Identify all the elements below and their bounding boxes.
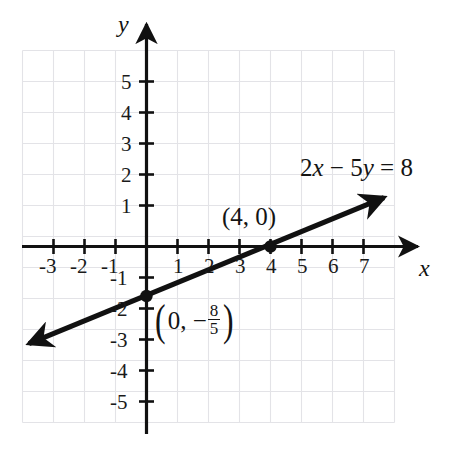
x-tick-label-1: 1 xyxy=(173,256,184,277)
y-tick-label-1: 1 xyxy=(121,196,132,217)
grid-lines xyxy=(23,51,395,423)
y-intercept-x-value: 0, xyxy=(168,308,187,333)
x-tick-label-5: 5 xyxy=(297,256,308,277)
y-intercept-close-paren: ) xyxy=(223,304,234,338)
fraction-numerator: 8 xyxy=(208,302,221,319)
y-tick-label-2: 2 xyxy=(121,165,132,186)
point-y-intercept xyxy=(140,290,152,302)
y-tick-label-5: 5 xyxy=(121,72,132,93)
graph-figure: -3 -2 -1 1 2 3 4 5 6 7 5 4 3 2 1 -1 -2 -… xyxy=(0,0,456,458)
equation-minus: − xyxy=(330,154,344,181)
x-tick-label--3: -3 xyxy=(39,256,57,277)
y-intercept-annotation: (0, −85) xyxy=(153,303,236,339)
x-tick-label-2: 2 xyxy=(204,256,215,277)
equation-equals: = xyxy=(380,154,394,181)
y-tick-label--2: -2 xyxy=(110,299,128,320)
x-tick-label-3: 3 xyxy=(235,256,246,277)
y-intercept-sign: − xyxy=(193,308,207,333)
point-x-intercept xyxy=(264,240,276,252)
x-tick-label-7: 7 xyxy=(359,256,370,277)
x-tick-label--2: -2 xyxy=(70,256,88,277)
y-tick-label--4: -4 xyxy=(110,361,128,382)
x-axis-label: x xyxy=(419,256,430,280)
y-tick-label--5: -5 xyxy=(110,392,128,413)
y-axis-label: y xyxy=(118,12,129,36)
y-tick-label--1: -1 xyxy=(110,268,128,289)
fraction-eight-fifths: 85 xyxy=(208,302,221,338)
fraction-denominator: 5 xyxy=(208,319,221,337)
axis-lines xyxy=(22,24,418,434)
equation-var-y: y xyxy=(363,154,374,181)
equation-annotation: 2x − 5y = 8 xyxy=(300,155,413,180)
equation-coef-y: 5 xyxy=(350,154,363,181)
equation-var-x: x xyxy=(313,154,324,181)
y-tick-label--3: -3 xyxy=(110,330,128,351)
y-tick-label-3: 3 xyxy=(121,134,132,155)
x-tick-label-4: 4 xyxy=(266,256,277,277)
x-intercept-annotation: (4, 0) xyxy=(222,204,276,229)
y-intercept-open-paren: ( xyxy=(155,304,166,338)
x-tick-label-6: 6 xyxy=(328,256,339,277)
equation-coef-x: 2 xyxy=(300,154,313,181)
y-tick-label-4: 4 xyxy=(121,103,132,124)
equation-rhs: 8 xyxy=(400,154,413,181)
